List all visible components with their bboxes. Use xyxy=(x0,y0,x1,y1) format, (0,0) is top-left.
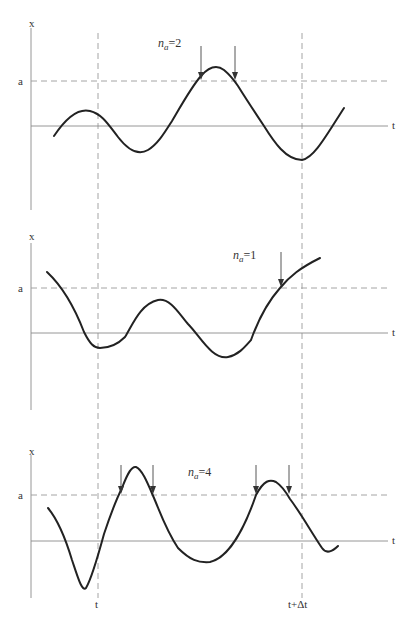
time-label-t: t xyxy=(95,598,98,610)
threshold-label: a xyxy=(18,489,23,501)
y-axis-label: x xyxy=(29,445,35,457)
time-label-t-plus-dt: t+Δt xyxy=(288,598,307,610)
panel-1: x a t na=2 xyxy=(18,17,395,210)
panel-3: x a t na=4 xyxy=(18,445,395,598)
panel-2: x a t na=1 xyxy=(18,230,395,410)
crossing-arrow xyxy=(232,46,238,80)
crossing-count-label: na=4 xyxy=(188,465,211,481)
y-axis-label: x xyxy=(29,230,35,242)
crossing-arrow xyxy=(286,465,292,494)
crossing-count-label: na=1 xyxy=(233,248,256,264)
threshold-label: a xyxy=(18,282,23,294)
signal-curve xyxy=(47,258,320,357)
threshold-crossing-diagram: x a t na=2 x a t na=1 x a t xyxy=(0,0,415,623)
crossing-arrow xyxy=(278,252,284,287)
t-axis-label: t xyxy=(392,326,395,338)
crossing-count-label: na=2 xyxy=(158,36,181,52)
crossing-arrow xyxy=(118,465,124,494)
t-axis-label: t xyxy=(392,534,395,546)
threshold-label: a xyxy=(18,75,23,87)
y-axis-label: x xyxy=(29,17,35,29)
signal-curve xyxy=(54,67,344,160)
signal-curve xyxy=(48,467,338,589)
t-axis-label: t xyxy=(392,119,395,131)
